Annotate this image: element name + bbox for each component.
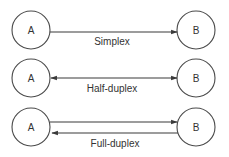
node-b-label: B bbox=[193, 122, 200, 133]
node-a-label: A bbox=[28, 25, 35, 36]
node-a-label: A bbox=[28, 122, 35, 133]
half-duplex-label: Half-duplex bbox=[87, 83, 138, 94]
node-b-label: B bbox=[193, 73, 200, 84]
node-b-label: B bbox=[193, 25, 200, 36]
half-duplex-row: A B Half-duplex bbox=[12, 59, 215, 97]
simplex-row: A B Simplex bbox=[12, 11, 215, 49]
simplex-label: Simplex bbox=[94, 36, 130, 47]
full-duplex-label: Full-duplex bbox=[91, 138, 140, 149]
transmission-modes-diagram: A B Simplex A B Half-duplex A B Full-dup… bbox=[0, 0, 229, 157]
node-a-label: A bbox=[28, 73, 35, 84]
diagram-canvas: A B Simplex A B Half-duplex A B Full-dup… bbox=[0, 0, 229, 157]
full-duplex-row: A B Full-duplex bbox=[12, 108, 215, 149]
